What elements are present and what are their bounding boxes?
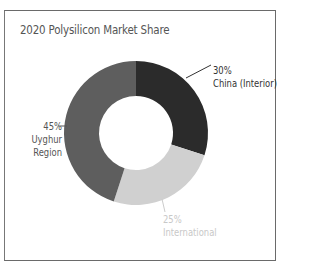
label-international: 25% International bbox=[163, 213, 217, 239]
slice-international bbox=[114, 144, 205, 205]
label-uyghur-name-1: Uyghur bbox=[26, 133, 62, 146]
leader-line-china bbox=[186, 65, 211, 78]
label-uyghur-region: 45% Uyghur Region bbox=[26, 120, 62, 159]
label-uyghur-name-2: Region bbox=[26, 146, 62, 159]
label-intl-pct: 25% bbox=[163, 213, 217, 226]
label-china-interior: 30% China (Interior) bbox=[213, 64, 277, 90]
slice-china-interior bbox=[136, 61, 208, 155]
label-uyghur-pct: 45% bbox=[26, 120, 62, 133]
leader-line-international bbox=[162, 199, 165, 212]
label-china-pct: 30% bbox=[213, 64, 277, 77]
label-china-name: China (Interior) bbox=[213, 77, 277, 90]
label-intl-name: International bbox=[163, 226, 217, 239]
